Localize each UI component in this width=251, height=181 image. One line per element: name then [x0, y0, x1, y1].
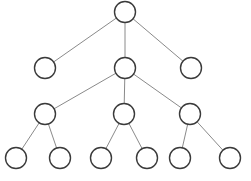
tree-node-b3b — [220, 148, 241, 169]
edge-b2-b2a — [106, 123, 119, 148]
edge-b3-b3b — [197, 122, 223, 150]
edges-group — [22, 18, 223, 150]
tree-node-b1 — [35, 104, 56, 125]
edge-b1-b1b — [48, 124, 56, 148]
nodes-group — [6, 2, 241, 169]
edge-b-b1 — [54, 73, 116, 109]
edge-b-b2 — [124, 78, 125, 103]
tree-node-a — [35, 58, 56, 79]
tree-node-b — [115, 58, 136, 79]
edge-root-a — [54, 18, 117, 62]
edge-b3-b3a — [182, 124, 187, 148]
tree-node-b2a — [91, 148, 112, 169]
tree-svg — [0, 0, 251, 181]
tree-node-b3 — [180, 104, 201, 125]
tree-diagram — [0, 0, 251, 181]
edge-b1-b1a — [22, 123, 39, 149]
tree-node-b2 — [114, 104, 135, 125]
tree-node-root — [115, 2, 136, 23]
tree-node-b1b — [50, 148, 71, 169]
edge-root-c — [133, 19, 183, 61]
tree-node-c — [181, 58, 202, 79]
edge-b-b3 — [134, 74, 182, 108]
tree-node-b3a — [170, 148, 191, 169]
tree-node-b2b — [137, 148, 158, 169]
edge-b2-b2b — [129, 123, 142, 148]
tree-node-b1a — [6, 148, 27, 169]
